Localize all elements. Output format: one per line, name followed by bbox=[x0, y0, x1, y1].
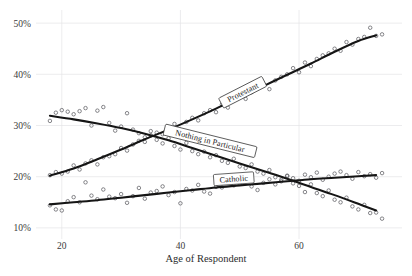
series-label-catholic: Catholic bbox=[213, 172, 254, 186]
y-tick-label: 10% bbox=[14, 223, 32, 233]
y-tick-label: 30% bbox=[14, 121, 32, 131]
x-tick-label: 60 bbox=[294, 241, 304, 251]
x-axis-title: Age of Respondent bbox=[165, 253, 246, 264]
religion-by-age-scatter-chart: 10%20%30%40%50% 204060 ProtestantNothing… bbox=[0, 0, 412, 276]
chart-container: 10%20%30%40%50% 204060 ProtestantNothing… bbox=[0, 0, 412, 276]
x-tick-label: 40 bbox=[176, 241, 186, 251]
y-tick-label: 20% bbox=[14, 172, 32, 182]
y-tick-label: 40% bbox=[14, 70, 32, 80]
y-tick-label: 50% bbox=[14, 19, 32, 29]
x-tick-label: 20 bbox=[57, 241, 67, 251]
